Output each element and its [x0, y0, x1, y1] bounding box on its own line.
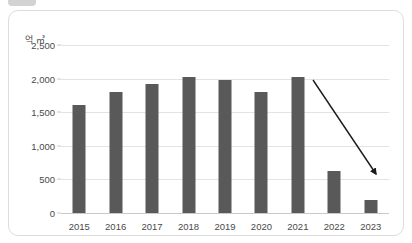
top-chip[interactable]: [8, 0, 36, 6]
bar[interactable]: [218, 80, 231, 213]
bar[interactable]: [255, 92, 268, 213]
bar[interactable]: [328, 171, 341, 213]
bar-group: 2018: [170, 45, 206, 213]
x-axis-tick-label: 2019: [214, 221, 235, 232]
bar-group: 2017: [134, 45, 170, 213]
y-axis-tick-label: 1,000: [31, 140, 55, 151]
x-axis-tick-label: 2021: [287, 221, 308, 232]
chart-card: 억 ㎥ 05001,0001,5002,0002,500201520162017…: [8, 10, 404, 236]
bar[interactable]: [291, 77, 304, 213]
plot-area: 05001,0001,5002,0002,5002015201620172018…: [61, 45, 389, 213]
x-axis-tick-label: 2022: [324, 221, 345, 232]
bar[interactable]: [182, 77, 195, 213]
bar-group: 2022: [316, 45, 352, 213]
y-axis-tick-label: 2,500: [31, 40, 55, 51]
x-axis-tick-label: 2023: [360, 221, 381, 232]
bar-group: 2016: [97, 45, 133, 213]
bar[interactable]: [364, 200, 377, 213]
bar[interactable]: [146, 84, 159, 213]
x-axis-tick-label: 2018: [178, 221, 199, 232]
bar-group: 2020: [243, 45, 279, 213]
bar[interactable]: [73, 105, 86, 213]
x-axis-tick-label: 2020: [251, 221, 272, 232]
y-axis-tick-label: 500: [39, 174, 55, 185]
bar-group: 2023: [353, 45, 389, 213]
x-axis-tick-label: 2017: [142, 221, 163, 232]
y-axis-tick-label: 2,000: [31, 73, 55, 84]
y-axis-tick-label: 1,500: [31, 107, 55, 118]
gridline: [61, 213, 389, 214]
bar[interactable]: [109, 92, 122, 213]
bar-group: 2019: [207, 45, 243, 213]
x-axis-tick-label: 2016: [105, 221, 126, 232]
y-axis-tick-label: 0: [50, 208, 55, 219]
bar-group: 2021: [280, 45, 316, 213]
bar-group: 2015: [61, 45, 97, 213]
x-axis-tick-label: 2015: [69, 221, 90, 232]
